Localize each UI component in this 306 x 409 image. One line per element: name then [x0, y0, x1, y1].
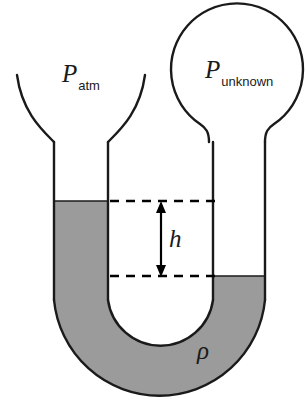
unknown-pressure-label: Punknown [204, 56, 273, 89]
pressure-bulb-outline [171, 3, 303, 142]
atm-pressure-subscript: atm [78, 78, 100, 93]
left-funnel-inner-edge [108, 75, 145, 142]
atmospheric-pressure-label: Patm [61, 60, 100, 93]
height-label: h [169, 225, 182, 252]
unknown-pressure-symbol: P [204, 56, 220, 83]
manometer-figure: Patm Punknown h ρ [0, 0, 306, 409]
height-arrow [156, 201, 166, 277]
manometer-svg: Patm Punknown h ρ [0, 0, 306, 409]
left-funnel-outer-edge [17, 75, 54, 142]
tube-outline [17, 3, 303, 395]
density-label: ρ [196, 337, 209, 364]
height-arrow-head-top [156, 201, 166, 213]
unknown-pressure-subscript: unknown [221, 74, 273, 89]
atm-pressure-symbol: P [61, 60, 77, 87]
